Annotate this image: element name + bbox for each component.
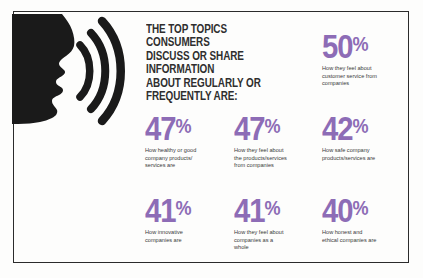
speaking-head-silhouette [0, 0, 150, 160]
stat-block-healthy-products: 47% How healthy or good company products… [145, 110, 233, 170]
stat-number: 40 [322, 191, 352, 229]
page-title: THE TOP TOPICS CONSUMERS DISCUSS OR SHAR… [146, 23, 280, 103]
stat-number: 47 [234, 109, 264, 147]
sound-wave-arc-1 [80, 45, 90, 97]
stat-number: 42 [322, 109, 352, 147]
percent-sign: % [352, 114, 368, 137]
stat-block-products-services-feel: 47% How they feel about the products/ser… [234, 110, 322, 170]
stat-block-honest-ethical: 40% How honest and ethical companies are [322, 192, 410, 244]
stat-value: 47% [145, 110, 221, 144]
stat-block-safe-products: 42% How safe company products/services a… [322, 110, 410, 162]
stat-caption: How healthy or good company products/ se… [145, 147, 233, 170]
percent-sign: % [175, 196, 191, 219]
stat-block-innovative: 41% How innovative companies are [145, 192, 233, 244]
stat-caption: How honest and ethical companies are [322, 229, 410, 244]
percent-sign: % [175, 114, 191, 137]
stat-value: 50% [322, 28, 398, 62]
percent-sign: % [264, 114, 280, 137]
stat-caption: How safe company products/services are [322, 147, 410, 162]
stat-number: 50 [322, 27, 352, 65]
stat-caption: How they feel about customer service fro… [322, 65, 410, 88]
stat-caption: How innovative companies are [145, 229, 233, 244]
head-profile-shape [12, 14, 74, 124]
percent-sign: % [264, 196, 280, 219]
stat-caption: How they feel about companies as a whole [234, 229, 322, 252]
stat-value: 42% [322, 110, 398, 144]
stat-value: 40% [322, 192, 398, 226]
stat-value: 41% [234, 192, 310, 226]
stat-number: 41 [145, 191, 175, 229]
stat-value: 47% [234, 110, 310, 144]
stat-caption: How they feel about the products/service… [234, 147, 322, 170]
infographic-canvas: THE TOP TOPICS CONSUMERS DISCUSS OR SHAR… [0, 0, 423, 278]
percent-sign: % [352, 196, 368, 219]
stat-block-customer-service: 50% How they feel about customer service… [322, 28, 410, 88]
stat-value: 41% [145, 192, 221, 226]
stat-number: 47 [145, 109, 175, 147]
stat-block-companies-as-whole: 41% How they feel about companies as a w… [234, 192, 322, 252]
stat-number: 41 [234, 191, 264, 229]
percent-sign: % [352, 32, 368, 55]
